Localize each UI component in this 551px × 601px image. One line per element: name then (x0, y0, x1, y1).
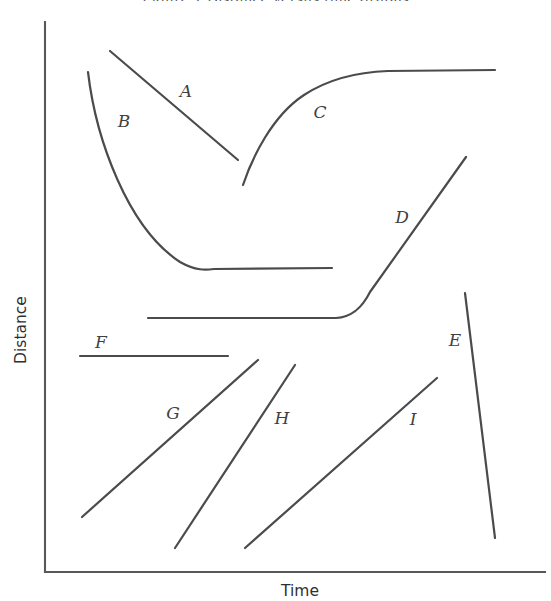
curve-i (245, 378, 437, 548)
curve-label-d: D (394, 207, 409, 227)
curve-label-c: C (313, 102, 326, 122)
curve-e (465, 293, 495, 538)
curve-label-i: I (409, 409, 417, 429)
curve-label-b: B (117, 111, 131, 131)
curve-d (148, 157, 466, 318)
figure-container: Figure 1 Distance versus time graphs ABC… (0, 0, 551, 601)
curve-label-g: G (166, 403, 180, 423)
curve-a (110, 51, 238, 160)
curve-label-group: ABCDEFGHI (94, 81, 462, 429)
curve-label-f: F (94, 332, 108, 352)
x-axis-label: Time (280, 582, 319, 600)
y-axis-label: Distance (12, 296, 30, 364)
curve-g (82, 360, 258, 517)
curve-group (80, 51, 495, 548)
distance-time-plot: ABCDEFGHI Distance Time (0, 0, 551, 601)
curve-label-h: H (274, 408, 291, 428)
curve-label-e: E (448, 330, 462, 350)
curve-label-a: A (178, 81, 192, 101)
